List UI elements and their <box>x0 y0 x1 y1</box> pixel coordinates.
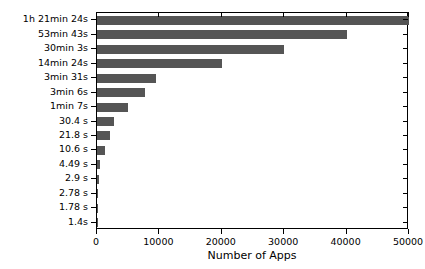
bar-row <box>97 16 409 25</box>
y-axis-tick-mark <box>91 48 96 49</box>
y-axis-tick-mark-right <box>403 135 408 136</box>
bar <box>97 59 222 68</box>
x-axis-tick-mark <box>283 229 284 234</box>
y-axis-tick-mark-right <box>403 149 408 150</box>
y-axis-tick-mark-right <box>403 207 408 208</box>
bar-row <box>97 45 409 54</box>
y-axis-tick-label: 30.4 s <box>0 116 88 126</box>
y-axis-tick-label: 30min 3s <box>0 43 88 53</box>
bar-row <box>97 30 409 39</box>
y-axis-tick-mark <box>91 63 96 64</box>
bar-row <box>97 160 409 169</box>
bar-row <box>97 131 409 140</box>
x-axis-tick-label: 30000 <box>268 236 298 247</box>
x-axis-tick-mark-top <box>283 12 284 17</box>
bar-row <box>97 146 409 155</box>
x-axis-tick-mark-top <box>221 12 222 17</box>
y-axis-tick-mark-right <box>403 222 408 223</box>
bar <box>97 131 110 140</box>
x-axis-tick-mark <box>96 229 97 234</box>
y-axis-tick-mark-right <box>403 48 408 49</box>
y-axis-tick-mark-right <box>403 77 408 78</box>
y-axis-tick-mark-right <box>403 164 408 165</box>
x-axis-tick-label: 40000 <box>330 236 360 247</box>
x-axis-tick-label: 10000 <box>143 236 173 247</box>
y-axis-tick-mark <box>91 193 96 194</box>
bar-row <box>97 175 409 184</box>
y-axis-tick-label: 3min 31s <box>0 72 88 82</box>
bar <box>97 74 156 83</box>
bar-row <box>97 218 409 227</box>
bar <box>97 146 105 155</box>
x-axis-tick-mark-top <box>408 12 409 17</box>
bar <box>97 218 98 227</box>
x-axis-tick-label: 50000 <box>393 236 423 247</box>
y-axis-tick-mark-right <box>403 121 408 122</box>
x-axis-tick-mark-top <box>158 12 159 17</box>
bar <box>97 45 284 54</box>
bar-row <box>97 88 409 97</box>
y-axis-tick-label: 1h 21min 24s <box>0 14 88 24</box>
x-axis-title: Number of Apps <box>96 249 408 262</box>
y-axis-tick-mark <box>91 106 96 107</box>
y-axis-tick-mark-right <box>403 34 408 35</box>
plot-area <box>96 12 408 229</box>
y-axis-tick-label: 10.6 s <box>0 144 88 154</box>
x-axis-tick-mark <box>346 229 347 234</box>
bar <box>97 189 98 198</box>
bar <box>97 30 347 39</box>
y-axis-tick-mark <box>91 178 96 179</box>
x-axis-tick-mark-top <box>96 12 97 17</box>
y-axis-tick-label: 2.78 s <box>0 188 88 198</box>
bar <box>97 160 100 169</box>
y-axis-tick-mark-right <box>403 178 408 179</box>
y-axis-tick-label: 1.4s <box>0 217 88 227</box>
x-axis-tick-mark-top <box>346 12 347 17</box>
y-axis-tick-label: 21.8 s <box>0 130 88 140</box>
y-axis-tick-label: 14min 24s <box>0 58 88 68</box>
y-axis-tick-label: 4.49 s <box>0 159 88 169</box>
y-axis-tick-label: 53min 43s <box>0 29 88 39</box>
y-axis-tick-mark <box>91 77 96 78</box>
y-axis-tick-mark <box>91 34 96 35</box>
y-axis-tick-mark <box>91 92 96 93</box>
bar-row <box>97 59 409 68</box>
bar-row <box>97 189 409 198</box>
y-axis-tick-mark-right <box>403 92 408 93</box>
x-axis-tick-label: 0 <box>93 236 99 247</box>
bar-row <box>97 74 409 83</box>
y-axis-tick-mark <box>91 207 96 208</box>
x-axis-tick-label: 20000 <box>206 236 236 247</box>
bar-row <box>97 103 409 112</box>
x-axis-tick-mark <box>408 229 409 234</box>
y-axis-tick-mark <box>91 164 96 165</box>
x-axis-tick-mark <box>221 229 222 234</box>
bar-row <box>97 117 409 126</box>
y-axis-tick-mark <box>91 222 96 223</box>
bar <box>97 175 99 184</box>
bar <box>97 88 145 97</box>
bar <box>97 117 114 126</box>
bar <box>97 16 409 25</box>
y-axis-tick-label: 3min 6s <box>0 87 88 97</box>
y-axis-tick-mark-right <box>403 63 408 64</box>
y-axis-tick-mark <box>91 135 96 136</box>
bar <box>97 103 128 112</box>
y-axis-tick-mark <box>91 121 96 122</box>
y-axis-tick-mark-right <box>403 19 408 20</box>
bar <box>97 204 98 213</box>
bar-chart-figure: 1h 21min 24s53min 43s30min 3s14min 24s3m… <box>0 0 425 269</box>
y-axis-tick-label: 1.78 s <box>0 202 88 212</box>
y-axis-tick-mark <box>91 19 96 20</box>
y-axis-tick-mark <box>91 149 96 150</box>
y-axis-tick-mark-right <box>403 193 408 194</box>
y-axis-tick-mark-right <box>403 106 408 107</box>
y-axis-tick-label: 2.9 s <box>0 173 88 183</box>
bar-row <box>97 204 409 213</box>
y-axis-tick-label: 1min 7s <box>0 101 88 111</box>
y-axis-tick-labels: 1h 21min 24s53min 43s30min 3s14min 24s3m… <box>0 12 88 229</box>
x-axis-tick-mark <box>158 229 159 234</box>
